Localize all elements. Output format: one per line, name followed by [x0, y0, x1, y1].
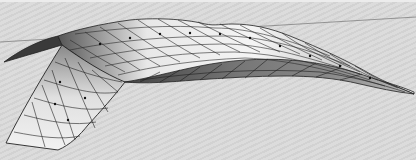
- mesh-surface: [0, 0, 416, 160]
- render-scene: [0, 0, 416, 160]
